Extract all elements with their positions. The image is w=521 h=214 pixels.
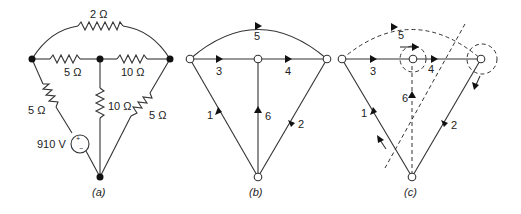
resistor-10ohm-v-icon — [96, 88, 104, 118]
resistor-5ohm-h-icon — [50, 55, 80, 63]
label-10ohm-v: 10 Ω — [108, 100, 132, 112]
graph-c: 5 3 4 1 6 2 (c) — [338, 23, 497, 198]
caption-c: (c) — [404, 186, 417, 198]
svg-text:5: 5 — [398, 29, 404, 41]
cut-arrow-right-icon — [472, 82, 479, 90]
svg-text:3: 3 — [370, 65, 376, 77]
svg-text:6: 6 — [265, 110, 271, 122]
svg-text:4: 4 — [285, 65, 291, 77]
svg-text:−: − — [79, 145, 83, 152]
label-5ohm-h: 5 Ω — [64, 66, 81, 78]
caption-b: (b) — [249, 186, 263, 198]
graph-b: 5 3 4 1 6 2 (b) — [186, 22, 331, 198]
svg-text:2: 2 — [298, 118, 304, 130]
svg-text:4: 4 — [428, 63, 434, 75]
cut-arrow-left-icon — [377, 135, 384, 143]
label-5ohm-left: 5 Ω — [28, 104, 45, 116]
svg-text:2: 2 — [451, 119, 457, 131]
svg-text:1: 1 — [207, 109, 213, 121]
caption-a: (a) — [92, 186, 106, 198]
arrow-5-icon — [255, 22, 262, 30]
label-10ohm-h: 10 Ω — [121, 66, 145, 78]
arrow-3-icon — [216, 55, 223, 63]
cut-arrow-mid-icon — [412, 43, 419, 51]
label-5ohm-right: 5 Ω — [149, 109, 166, 121]
figure-canvas: + − 2 Ω 5 Ω 10 Ω 5 Ω 10 Ω 5 Ω 910 V (a) — [0, 0, 521, 214]
svg-text:6: 6 — [402, 92, 408, 104]
svg-text:+: + — [76, 135, 80, 142]
circuit-a: + − 2 Ω 5 Ω 10 Ω 5 Ω 10 Ω 5 Ω 910 V (a) — [28, 8, 174, 198]
svg-text:5: 5 — [254, 30, 260, 42]
cutset-line — [385, 24, 465, 168]
svg-text:3: 3 — [216, 65, 222, 77]
voltage-source-icon: + − — [71, 135, 89, 153]
resistor-10ohm-h-icon — [117, 55, 147, 63]
svg-text:1: 1 — [361, 107, 367, 119]
arrow-4-icon — [285, 55, 292, 63]
label-910v: 910 V — [37, 138, 66, 150]
arrow-6-icon — [254, 106, 262, 113]
label-2ohm: 2 Ω — [90, 8, 107, 20]
resistor-2ohm-icon — [78, 22, 123, 30]
circuit-figure: + − 2 Ω 5 Ω 10 Ω 5 Ω 10 Ω 5 Ω 910 V (a) — [0, 0, 521, 214]
